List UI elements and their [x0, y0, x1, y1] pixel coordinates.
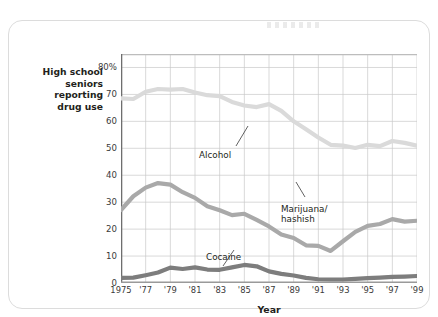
y-axis-tick-labels: 01020304050607080% — [85, 54, 117, 283]
y-tick-label: 10 — [87, 251, 117, 261]
series-label-alcohol: Alcohol — [199, 150, 231, 160]
scan-artifact — [267, 22, 319, 28]
y-tick-label: 20 — [87, 224, 117, 234]
x-tick-label: '77 — [139, 285, 152, 295]
x-tick-label: '83 — [213, 285, 226, 295]
chart-svg — [121, 54, 417, 283]
y-tick-label: 60 — [87, 116, 117, 126]
y-tick-label: 50 — [87, 143, 117, 153]
x-tick-label: '85 — [238, 285, 251, 295]
y-tick-label: 40 — [87, 170, 117, 180]
series-label-marijuana-line: hashish — [281, 214, 327, 224]
x-axis-tick-labels: 1975'77'79'81'83'85'87'89'91'93'95'97'99 — [121, 285, 417, 299]
x-tick-label: '91 — [312, 285, 325, 295]
x-tick-label: '81 — [189, 285, 202, 295]
x-tick-label: '97 — [386, 285, 399, 295]
series-label-cocaine: Cocaine — [206, 252, 241, 262]
x-tick-label: '89 — [287, 285, 300, 295]
x-tick-label: '99 — [411, 285, 424, 295]
y-tick-label: 80% — [87, 62, 117, 72]
y-tick-label: 70 — [87, 89, 117, 99]
series-label-marijuana-line: Marijuana/ — [281, 204, 327, 214]
chart-figure-frame: High school seniors reporting drug use 0… — [8, 20, 430, 309]
x-tick-label: '95 — [361, 285, 374, 295]
x-axis-title: Year — [121, 304, 417, 315]
plot-area: Alcohol Marijuana/hashish Cocaine — [121, 54, 417, 283]
y-tick-label: 30 — [87, 197, 117, 207]
x-tick-label: '79 — [164, 285, 177, 295]
x-tick-label: 1975 — [110, 285, 131, 295]
series-label-marijuana: Marijuana/hashish — [281, 204, 327, 225]
x-tick-label: '93 — [337, 285, 350, 295]
x-tick-label: '87 — [263, 285, 276, 295]
